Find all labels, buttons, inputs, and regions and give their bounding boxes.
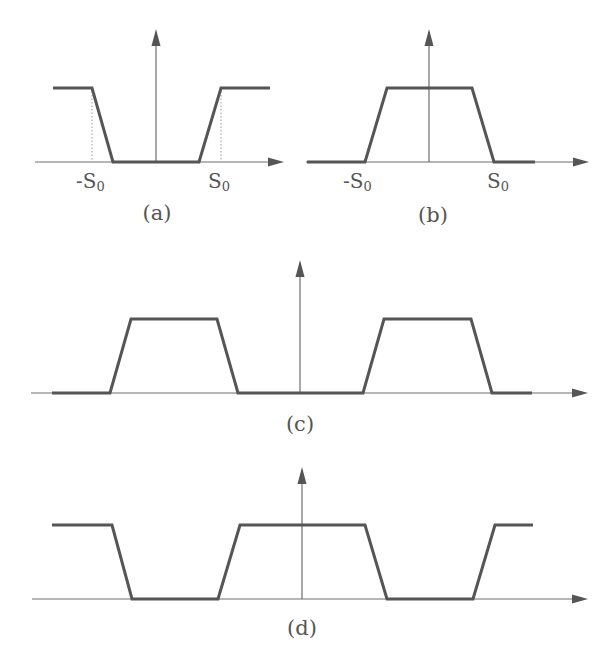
x-axis-arrow-icon [572, 595, 588, 604]
panel-a: -S0S0 (a) [35, 29, 284, 225]
panel-c: (c) [31, 260, 588, 436]
y-axis-arrow-icon [298, 467, 307, 484]
tick-labels: -S0S0 [343, 169, 509, 194]
y-axis-arrow-icon [296, 260, 305, 277]
tick-label: S0 [208, 169, 230, 194]
tick-labels: -S0S0 [76, 169, 230, 194]
panel-b: -S0S0 (b) [306, 29, 589, 227]
panel-caption: (a) [143, 201, 172, 225]
filter-response-figure: -S0S0 (a) -S0S0 (b) (c) (d) [0, 0, 615, 671]
x-axis-arrow-icon [573, 158, 589, 167]
panel-caption: (d) [287, 616, 317, 640]
response-curve [52, 319, 532, 393]
tick-label: -S0 [343, 169, 372, 194]
x-axis-arrow-icon [268, 158, 284, 167]
response-curve [307, 88, 535, 162]
response-curve [52, 525, 533, 599]
response-curve [53, 88, 270, 162]
y-axis-arrow-icon [425, 29, 434, 46]
y-axis-arrow-icon [152, 29, 161, 46]
panel-caption: (c) [286, 412, 314, 436]
x-axis-arrow-icon [572, 389, 588, 398]
panel-d: (d) [32, 467, 588, 640]
panel-caption: (b) [418, 203, 448, 227]
tick-label: -S0 [76, 169, 105, 194]
tick-label: S0 [487, 169, 509, 194]
